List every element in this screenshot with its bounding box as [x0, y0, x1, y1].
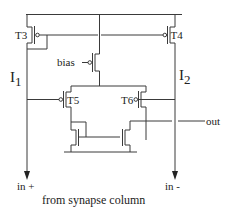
caption: from synapse column: [42, 193, 145, 207]
label-out: out: [206, 115, 220, 127]
transistor-t3: [27, 14, 47, 175]
label-i2: I2: [179, 67, 191, 87]
label-in-minus: in -: [165, 180, 180, 192]
transistor-bias: [82, 14, 100, 86]
label-i1: I1: [10, 69, 22, 89]
label-in-plus: in +: [17, 180, 35, 192]
label-t5: T5: [67, 94, 80, 106]
transistor-t5: [27, 86, 71, 126]
label-bias: bias: [57, 56, 75, 68]
label-t4: T4: [171, 29, 184, 41]
label-t6: T6: [121, 94, 134, 106]
transistor-t6: [134, 86, 175, 140]
arrow-in-minus: [172, 171, 178, 180]
circuit-diagram: T3 T4 T5 T6 bias out I1 I2 in + in - fro…: [0, 0, 234, 214]
label-t3: T3: [15, 29, 28, 41]
arrow-in-plus: [24, 171, 30, 180]
current-mirror: [64, 121, 137, 152]
